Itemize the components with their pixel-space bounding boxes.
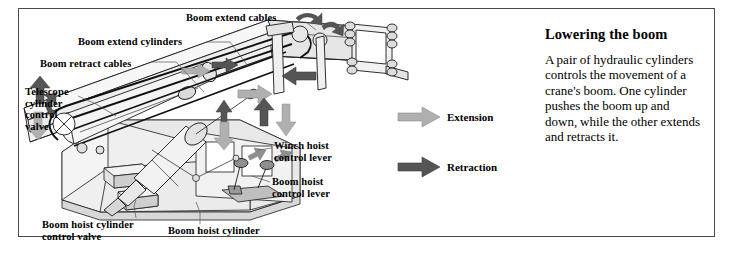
- panel-title: Lowering the boom: [545, 26, 703, 43]
- label-boom-hoist-cylinder: Boom hoist cylinder: [168, 225, 260, 237]
- label-telescope-cylinder-control-valve: Telescope cylinder control valve: [25, 86, 69, 132]
- legend-label-extension: Extension: [447, 111, 493, 123]
- text-panel: Lowering the boom A pair of hydraulic cy…: [545, 26, 703, 144]
- label-winch-hoist-control-lever: Winch hoist control lever: [274, 140, 332, 163]
- label-boom-extend-cylinders: Boom extend cylinders: [78, 36, 182, 48]
- label-boom-extend-cables: Boom extend cables: [186, 12, 276, 24]
- label-boom-hoist-cylinder-control-valve: Boom hoist cylinder control valve: [42, 219, 134, 242]
- label-boom-retract-cables: Boom retract cables: [40, 58, 132, 70]
- figure-root: Boom extend cables Boom extend cylinders…: [0, 0, 738, 256]
- label-boom-hoist-control-lever: Boom hoist control lever: [272, 176, 330, 199]
- legend-label-retraction: Retraction: [447, 161, 497, 173]
- panel-body: A pair of hydraulic cylinders controls t…: [545, 52, 703, 144]
